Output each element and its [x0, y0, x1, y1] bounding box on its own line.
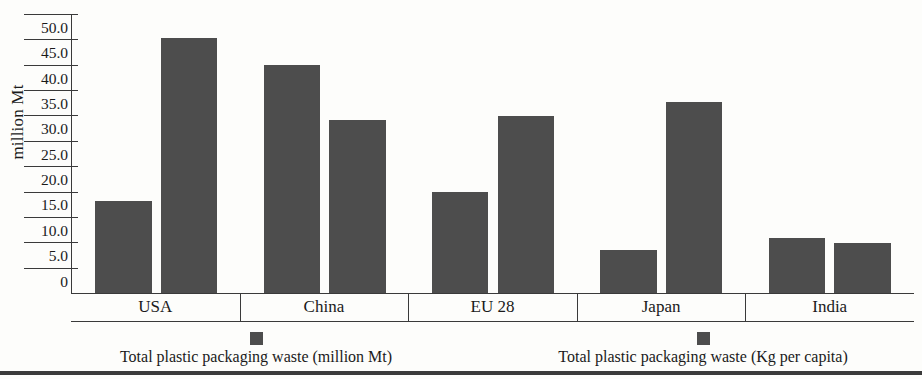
category-separator [408, 293, 409, 321]
legend-label: Total plastic packaging waste (Kg per ca… [488, 348, 918, 366]
y-axis-tick-label: 15.0 [24, 192, 72, 218]
bar [834, 243, 890, 293]
bar-group [72, 14, 240, 293]
category-separator [577, 293, 578, 321]
bar-group [746, 14, 914, 293]
x-axis-category-label: China [240, 293, 409, 321]
bar-group [409, 14, 577, 293]
category-separator [745, 293, 746, 321]
bar [329, 120, 385, 293]
y-axis-tick-label: 5.0 [24, 242, 72, 268]
y-axis-tick-label: 10.0 [24, 217, 72, 243]
category-axis-bottom-rule [71, 321, 914, 322]
bar [666, 102, 722, 293]
y-axis-tick-label: 50.0 [24, 14, 72, 40]
legend-label: Total plastic packaging waste (million M… [36, 348, 476, 366]
legend-swatch-icon [697, 332, 710, 345]
category-label-text: China [304, 297, 345, 317]
bar-chart: million Mt 50.045.040.035.030.025.020.01… [0, 0, 922, 379]
bar-group [577, 14, 745, 293]
page-bottom-rule [0, 371, 922, 375]
y-axis-tick-label: 45.0 [24, 39, 72, 65]
bar [95, 201, 151, 293]
bar [769, 238, 825, 293]
x-axis-category-label: EU 28 [408, 293, 577, 321]
chart-legend: Total plastic packaging waste (million M… [0, 332, 922, 372]
bar [161, 38, 217, 293]
x-axis-category-label: India [745, 293, 914, 321]
category-label-text: EU 28 [471, 297, 515, 317]
bar [432, 192, 488, 293]
y-axis-tick-label: 25.0 [24, 141, 72, 167]
bar-group [240, 14, 408, 293]
y-axis-tick-label: 20.0 [24, 166, 72, 192]
legend-item[interactable]: Total plastic packaging waste (million M… [36, 332, 476, 366]
y-axis-tick-label: 40.0 [24, 65, 72, 91]
bar [498, 116, 554, 293]
bar [600, 250, 656, 293]
x-axis-category-label: USA [71, 293, 240, 321]
bar [264, 65, 320, 293]
y-axis-tick-label: 35.0 [24, 90, 72, 116]
legend-item[interactable]: Total plastic packaging waste (Kg per ca… [488, 332, 918, 366]
x-axis-category-label: Japan [577, 293, 746, 321]
category-separator [240, 293, 241, 321]
category-label-text: USA [138, 297, 172, 317]
legend-swatch-icon [250, 332, 263, 345]
category-label-text: India [812, 297, 847, 317]
y-axis-tick-label: 30.0 [24, 115, 72, 141]
plot-area [72, 14, 914, 293]
category-axis: USAChinaEU 28JapanIndia [71, 293, 914, 321]
category-label-text: Japan [642, 297, 681, 317]
y-axis-tick-label: 0 [24, 268, 72, 294]
y-axis-tick-labels: 50.045.040.035.030.025.020.015.010.05.00 [24, 14, 72, 293]
